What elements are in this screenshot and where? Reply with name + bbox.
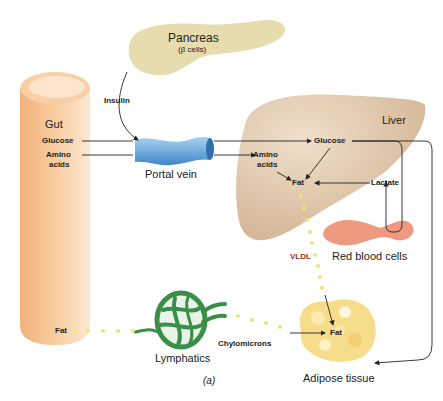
gut-label: Gut (45, 118, 63, 130)
gut-amino-label-line2: acids (49, 161, 69, 170)
gut-fat-label: Fat (55, 327, 67, 336)
portal-vein-label: Portal vein (145, 168, 197, 180)
red-blood-cells-shape (323, 220, 413, 245)
lactate-label: Lactate (371, 179, 399, 188)
adipose-fat-label: Fat (330, 329, 342, 338)
pancreas-label: Pancreas (168, 32, 219, 45)
portal-vein-shape (135, 137, 210, 165)
insulin-label: Insulin (104, 97, 130, 106)
gut-amino-label-line1: Amino (46, 151, 71, 160)
panel-caption: (a) (203, 375, 215, 386)
gut-glucose-label: Glucose (42, 137, 74, 146)
pancreas-shape (129, 20, 286, 75)
gut-tube (20, 72, 90, 345)
chylomicrons-label: Chylomicrons (218, 340, 271, 349)
liver-amino-label-line2: acids (257, 161, 277, 170)
vldl-label: VLDL (290, 253, 311, 262)
liver-glucose-label: Glucose (314, 137, 346, 146)
liver-amino-label-line1: Amino (253, 151, 278, 160)
lymphatics-shape (135, 293, 225, 347)
liver-fat-label: Fat (292, 179, 304, 188)
pancreas-sublabel: (β cells) (178, 46, 206, 55)
adipose-tissue-label: Adipose tissue (303, 372, 375, 384)
liver-label: Liver (382, 114, 406, 126)
lymphatics-label: Lymphatics (155, 352, 210, 364)
red-blood-cells-label: Red blood cells (332, 250, 407, 262)
